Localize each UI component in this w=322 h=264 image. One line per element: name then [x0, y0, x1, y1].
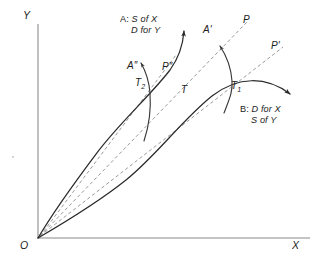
scan-artifact-speck [12, 156, 14, 158]
point-label-t2-sub: 2 [141, 83, 145, 90]
price-ray-p-double-prime-label: P″ [162, 61, 172, 72]
offer-curve-b-demand-x: D for X [252, 104, 281, 114]
shifted-curve-a-prime-label: A' [203, 24, 212, 35]
offer-curve-a-prefix: A: [120, 14, 129, 24]
price-ray-p-prime-label: P' [271, 40, 280, 51]
point-label-t: T [181, 84, 187, 95]
shifted-curve-a-double-prime-label: A″ [127, 60, 137, 71]
point-label-t2: T2 [135, 77, 145, 92]
offer-curve-b-label-line1: B: D for X [240, 104, 281, 115]
offer-curve-b-prefix: B: [240, 104, 249, 114]
price-rays-group [40, 22, 283, 236]
offer-curve-a-supply-x: S of X [132, 14, 158, 24]
origin-label: O [20, 240, 28, 251]
point-label-t1: T1 [231, 80, 241, 95]
offer-curve-b-label: B: D for X S of Y [240, 104, 281, 127]
price-ray-p-label: P [243, 14, 250, 25]
x-axis-label: X [292, 240, 299, 251]
price-ray-p [40, 22, 247, 236]
offer-curve-a-label-line1: A: S of X [120, 14, 160, 25]
offer-curve-b-supply-y: S of Y [251, 115, 281, 126]
offer-curve-a-label: A: S of X D for Y [120, 14, 160, 37]
y-axis-label: Y [23, 10, 30, 21]
point-label-t1-sub: 1 [237, 86, 241, 93]
price-ray-p-prime [40, 47, 283, 236]
offer-curve-figure: Y X O A: S of X D for Y B: D for X S of … [0, 0, 322, 264]
offer-curve-a-demand-y: D for Y [131, 25, 160, 36]
